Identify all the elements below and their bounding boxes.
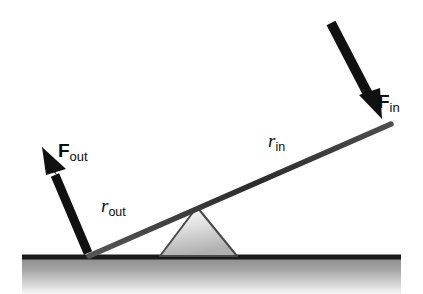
ground-fill [22,258,401,294]
lever-diagram: Fin Fout rin rout [0,0,423,294]
fulcrum-triangle [160,207,237,256]
label-force-out-base: F [58,140,70,161]
label-force-out-sub: out [70,149,88,164]
label-radius-in: rin [268,131,285,150]
label-radius-in-sub: in [275,140,285,154]
label-force-in: Fin [378,92,400,111]
label-force-in-base: F [378,91,390,112]
label-radius-out-sub: out [108,205,125,219]
lever-bar [89,124,391,256]
label-force-out: Fout [58,141,88,160]
force-in-arrow [331,23,382,119]
label-force-in-sub: in [390,100,400,115]
label-radius-out: rout [101,196,126,215]
